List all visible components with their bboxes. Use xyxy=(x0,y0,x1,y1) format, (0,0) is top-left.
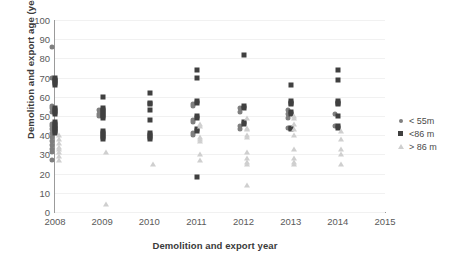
x-tick-label: 2010 xyxy=(129,216,169,227)
data-point xyxy=(147,90,152,95)
gridline xyxy=(55,174,385,175)
data-point xyxy=(197,158,203,163)
legend-marker-icon xyxy=(396,119,405,123)
data-point xyxy=(194,115,199,120)
x-tick-label: 2013 xyxy=(271,216,311,227)
data-point xyxy=(197,138,203,143)
data-point xyxy=(194,129,199,134)
data-point xyxy=(103,202,109,207)
data-point xyxy=(100,115,105,120)
data-point xyxy=(244,115,250,120)
data-point xyxy=(291,162,297,167)
data-point xyxy=(338,129,344,134)
x-tick-label: 2009 xyxy=(82,216,122,227)
data-point xyxy=(244,162,250,167)
data-point xyxy=(338,162,344,167)
legend-item[interactable]: < 55m xyxy=(396,114,458,127)
y-tick-label: 10 xyxy=(24,187,50,198)
y-tick-label: 20 xyxy=(24,168,50,179)
data-point xyxy=(244,135,250,140)
data-point xyxy=(244,150,250,155)
legend-marker-icon xyxy=(396,144,405,149)
data-point xyxy=(49,150,54,155)
data-point xyxy=(150,162,156,167)
data-point xyxy=(197,123,203,128)
legend-item[interactable]: <86 m xyxy=(396,127,458,140)
data-point xyxy=(103,150,109,155)
y-tick-label: 70 xyxy=(24,72,50,83)
y-axis-tick-labels: 0102030405060708090100 xyxy=(22,20,50,212)
data-point xyxy=(336,77,341,82)
data-point xyxy=(291,133,297,138)
gridline xyxy=(55,39,385,40)
data-point xyxy=(291,121,297,126)
data-point xyxy=(53,83,58,88)
gridline xyxy=(55,58,385,59)
data-point xyxy=(147,137,152,142)
data-point xyxy=(194,75,199,80)
data-point xyxy=(49,44,54,49)
x-tick-label: 2012 xyxy=(224,216,264,227)
x-tick-label: 2014 xyxy=(318,216,358,227)
data-point xyxy=(56,158,62,163)
data-point xyxy=(336,102,341,107)
data-point xyxy=(194,67,199,72)
plot-area xyxy=(55,20,385,212)
x-tick-label: 2008 xyxy=(35,216,75,227)
y-tick-label: 40 xyxy=(24,130,50,141)
data-point xyxy=(289,83,294,88)
data-point xyxy=(291,127,297,132)
legend-marker-icon xyxy=(396,131,405,136)
data-point xyxy=(338,152,344,157)
data-point xyxy=(291,115,297,120)
data-point xyxy=(147,108,152,113)
legend-label: < 55m xyxy=(409,116,434,126)
data-point xyxy=(53,112,58,117)
data-point xyxy=(147,102,152,107)
y-tick-label: 80 xyxy=(24,53,50,64)
data-point xyxy=(49,158,54,163)
scatter-chart: Demolition and export age (year) 0102030… xyxy=(0,0,460,265)
data-point xyxy=(338,146,344,151)
legend-item[interactable]: > 86 m xyxy=(396,140,458,153)
data-point xyxy=(291,146,297,151)
data-point xyxy=(244,127,250,132)
gridline xyxy=(55,212,385,213)
x-tick-label: 2015 xyxy=(365,216,405,227)
gridline xyxy=(55,193,385,194)
data-point xyxy=(100,94,105,99)
data-point xyxy=(100,137,105,142)
y-tick-label: 60 xyxy=(24,91,50,102)
y-tick-label: 90 xyxy=(24,34,50,45)
data-point xyxy=(338,137,344,142)
data-point xyxy=(289,102,294,107)
data-point xyxy=(244,183,250,188)
data-point xyxy=(241,52,246,57)
x-tick-label: 2011 xyxy=(176,216,216,227)
x-axis-title: Demolition and export year xyxy=(55,240,375,251)
y-tick-label: 30 xyxy=(24,149,50,160)
legend-label: <86 m xyxy=(409,129,434,139)
data-point xyxy=(194,175,199,180)
chart-legend: < 55m<86 m> 86 m xyxy=(396,114,458,153)
y-tick-label: 50 xyxy=(24,111,50,122)
data-point xyxy=(336,114,341,119)
data-point xyxy=(147,117,152,122)
data-point xyxy=(336,67,341,72)
gridline xyxy=(55,20,385,21)
data-point xyxy=(238,127,243,132)
data-point xyxy=(194,100,199,105)
data-point xyxy=(241,106,246,111)
y-tick-label: 100 xyxy=(24,15,50,26)
data-point xyxy=(197,152,203,157)
legend-label: > 86 m xyxy=(409,142,437,152)
